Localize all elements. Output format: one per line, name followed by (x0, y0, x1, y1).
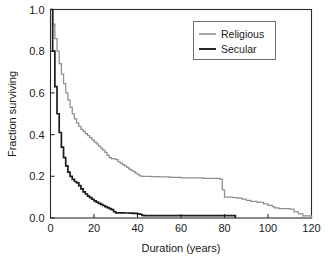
x-tick-label: 120 (302, 222, 320, 234)
x-tick-label: 0 (47, 222, 53, 234)
y-tick-label: 1.0 (29, 4, 44, 16)
x-tick-label: 100 (259, 222, 277, 234)
legend: Religious Secular (194, 22, 276, 60)
survival-curve-figure: 020406080100120 0.00.20.40.60.81.0 Durat… (0, 0, 328, 267)
x-tick-label: 40 (131, 222, 143, 234)
chart-canvas: 020406080100120 0.00.20.40.60.81.0 Durat… (0, 0, 328, 267)
y-tick-label: 0.0 (29, 212, 44, 224)
x-tick-label: 20 (88, 222, 100, 234)
y-tick-label: 0.8 (29, 45, 44, 57)
legend-label-secular: Secular (221, 43, 257, 55)
x-tick-label: 80 (218, 222, 230, 234)
y-axis-title: Fraction surviving (6, 71, 18, 157)
y-tick-label: 0.6 (29, 87, 44, 99)
y-tick-label: 0.4 (29, 129, 44, 141)
x-axis-title: Duration (years) (142, 242, 221, 254)
x-tick-label: 60 (175, 222, 187, 234)
y-tick-label: 0.2 (29, 170, 44, 182)
legend-label-religious: Religious (221, 28, 264, 40)
